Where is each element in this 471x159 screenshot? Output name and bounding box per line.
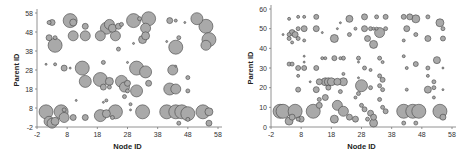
data-point	[381, 61, 384, 64]
data-point	[186, 89, 190, 93]
data-point	[378, 74, 382, 78]
data-point	[287, 33, 291, 37]
y-tick-label: 10	[259, 104, 267, 111]
data-point	[321, 32, 323, 34]
data-point	[288, 17, 291, 20]
data-point	[313, 87, 319, 93]
data-point	[105, 99, 108, 102]
x-tick-label: 28	[358, 131, 366, 138]
bubble-chart-right: -2818283848580102030405060Node IDParent …	[236, 0, 471, 159]
x-tick-label: 48	[184, 131, 192, 138]
data-point	[412, 15, 420, 23]
data-point	[352, 116, 358, 122]
data-point	[79, 75, 91, 87]
data-point	[110, 116, 114, 120]
y-tick-label: 50	[259, 25, 267, 32]
data-point	[412, 104, 426, 118]
data-point	[372, 27, 375, 30]
y-tick-label: 0	[263, 124, 267, 131]
data-point	[174, 19, 177, 22]
y-tick-label: 30	[259, 65, 267, 72]
data-point	[68, 31, 78, 41]
data-point	[375, 15, 379, 19]
data-point	[342, 72, 345, 75]
data-point	[426, 15, 430, 19]
data-point	[338, 106, 348, 116]
data-point	[289, 114, 295, 120]
data-point	[381, 105, 385, 109]
data-point	[206, 120, 212, 126]
data-point	[432, 96, 435, 99]
data-point	[402, 55, 405, 58]
data-point	[414, 33, 418, 37]
data-point	[357, 61, 359, 63]
data-point	[101, 60, 105, 64]
data-point	[169, 40, 183, 54]
x-tick-label: 58	[448, 131, 456, 138]
data-point	[70, 19, 77, 26]
data-point	[297, 74, 300, 77]
data-point	[102, 101, 104, 103]
data-point	[138, 17, 142, 21]
data-points	[39, 12, 216, 129]
data-point	[297, 15, 300, 18]
data-point	[303, 39, 306, 42]
x-tick-label: 28	[124, 131, 132, 138]
data-point	[346, 15, 353, 22]
data-point	[330, 115, 338, 123]
data-point	[69, 67, 71, 69]
data-point	[401, 14, 406, 19]
data-point	[316, 79, 322, 85]
data-point	[356, 56, 360, 60]
data-point	[131, 85, 143, 97]
data-point	[442, 67, 444, 69]
data-point	[339, 57, 342, 60]
data-point	[142, 32, 150, 40]
data-point	[177, 36, 181, 40]
data-point	[171, 84, 181, 94]
data-point	[369, 86, 373, 90]
data-point	[80, 31, 90, 41]
data-point	[426, 74, 429, 77]
x-axis-label: Node ID	[347, 142, 376, 151]
data-point	[354, 27, 357, 30]
y-tick-label: 60	[259, 6, 267, 13]
data-point	[102, 110, 110, 118]
x-tick-label: -2	[34, 131, 40, 138]
data-point	[75, 61, 89, 75]
data-point	[166, 41, 168, 43]
data-point	[362, 107, 367, 112]
data-point	[53, 36, 57, 40]
data-point	[51, 117, 59, 125]
data-point	[405, 67, 408, 70]
data-point	[82, 23, 88, 29]
data-point	[375, 27, 378, 30]
data-point	[314, 66, 319, 71]
y-tick-label: 18	[25, 86, 33, 93]
figure: -281828384858-281828384858Node IDParent …	[0, 0, 471, 159]
data-point	[290, 62, 294, 66]
x-tick-label: 8	[65, 131, 69, 138]
x-tick-label: 38	[154, 131, 162, 138]
y-axis-label: Parent ID	[12, 53, 21, 87]
x-tick-label: 18	[327, 131, 335, 138]
data-point	[313, 26, 319, 32]
y-tick-label: 58	[25, 10, 33, 17]
data-point	[425, 36, 431, 42]
data-point	[426, 66, 430, 70]
data-point	[326, 85, 331, 90]
data-point	[365, 36, 371, 42]
data-point	[338, 90, 342, 94]
data-point	[356, 92, 360, 96]
data-point	[317, 97, 321, 101]
data-point	[383, 14, 388, 19]
data-point	[407, 14, 413, 20]
data-point	[302, 66, 307, 71]
data-point	[404, 26, 410, 32]
data-point	[380, 77, 385, 82]
data-point	[441, 27, 445, 31]
data-point	[136, 105, 150, 119]
data-point	[296, 27, 300, 31]
data-point	[184, 22, 186, 24]
x-tick-label: 8	[299, 131, 303, 138]
